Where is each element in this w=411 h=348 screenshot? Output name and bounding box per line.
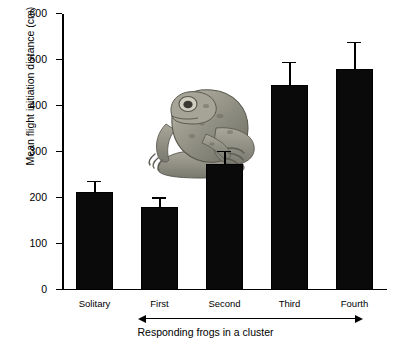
y-tick-label-2: 200 (29, 191, 47, 203)
arrow-line (144, 318, 356, 319)
errorbar-cap-fourth (347, 42, 361, 44)
bar-first (141, 207, 178, 290)
bar-third (271, 85, 308, 290)
y-tick-0: 0 (56, 289, 62, 291)
y-tick-1: 100 (56, 243, 62, 245)
errorbar-cap-first (152, 197, 166, 199)
y-tick-2: 200 (56, 197, 62, 199)
y-tick-label-5: 500 (29, 53, 47, 65)
x-tick-label-solitary: Solitary (79, 298, 111, 309)
y-tick-4: 400 (56, 105, 62, 107)
y-tick-5: 500 (56, 59, 62, 61)
errorbar-third (289, 63, 291, 85)
plot-area: 0 100 200 300 400 500 600 (62, 14, 387, 290)
x-axis-title: Responding frogs in a cluster (0, 326, 411, 338)
bar-fourth (336, 69, 373, 290)
cluster-range-arrow (138, 314, 363, 324)
x-tick-label-third: Third (279, 298, 301, 309)
errorbar-fourth (354, 43, 356, 69)
errorbar-first (159, 199, 161, 207)
errorbar-cap-second (217, 151, 231, 153)
y-tick-label-0: 0 (41, 283, 47, 295)
y-axis-line (62, 14, 64, 290)
bar-solitary (76, 192, 113, 290)
errorbar-cap-solitary (87, 181, 101, 183)
y-tick-label-3: 300 (29, 145, 47, 157)
y-tick-6: 600 (56, 13, 62, 15)
errorbar-solitary (94, 182, 96, 191)
errorbar-second (224, 152, 226, 164)
x-tick-label-fourth: Fourth (341, 298, 368, 309)
y-tick-label-1: 100 (29, 237, 47, 249)
bar-second (206, 164, 243, 290)
y-tick-label-4: 400 (29, 99, 47, 111)
x-tick-label-first: First (150, 298, 168, 309)
y-tick-3: 300 (56, 151, 62, 153)
x-tick-label-second: Second (208, 298, 240, 309)
y-tick-label-6: 600 (29, 7, 47, 19)
errorbar-cap-third (282, 62, 296, 64)
arrow-head-right-icon (355, 315, 363, 323)
chart-figure: Mean flight initiation distance (cm) 0 1… (0, 0, 411, 348)
